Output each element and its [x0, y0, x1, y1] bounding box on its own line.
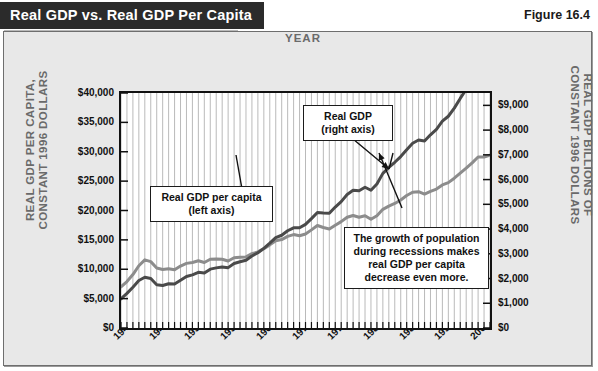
y-axis-right-tick-label: $1,000 — [498, 297, 529, 308]
y-axis-right-tick-label: $3,000 — [498, 248, 529, 259]
y-axis-right-tick-label: $5,000 — [498, 198, 529, 209]
y-axis-right-tick-label: $9,000 — [498, 99, 529, 110]
growth-callout-line4: decrease even more. — [351, 271, 482, 284]
y-axis-right-tick-label: $6,000 — [498, 174, 529, 185]
y-axis-right-tick-label: $2,000 — [498, 273, 529, 284]
figure-number: Figure 16.4 — [524, 8, 590, 22]
real-gdp-callout-line1: Real GDP — [310, 110, 386, 123]
figure-panel: REAL GDP PER CAPITA, CONSTANT 1996 DOLLA… — [3, 31, 592, 366]
growth-callout-line3: real GDP per capita — [351, 258, 482, 271]
y-axis-left-tick-label: $0 — [56, 322, 114, 333]
chart-title-bar: Real GDP vs. Real GDP Per Capita — [0, 2, 264, 29]
growth-callout-line2: during recessions makes — [351, 245, 482, 258]
real-gdp-callout-line2: (right axis) — [310, 123, 386, 136]
y-axis-left-tick-label: $5,000 — [56, 293, 114, 304]
y-axis-left-tick-label: $15,000 — [56, 234, 114, 245]
y-axis-right-tick-label: $0 — [498, 322, 509, 333]
y-axis-right-tick-label: $4,000 — [498, 223, 529, 234]
y-axis-right-tick-label: $8,000 — [498, 124, 529, 135]
figure-page: Real GDP vs. Real GDP Per Capita Figure … — [0, 0, 598, 371]
y-axis-left-title: REAL GDP PER CAPITA, CONSTANT 1996 DOLLA… — [24, 55, 50, 245]
y-axis-left-tick-label: $20,000 — [56, 205, 114, 216]
real-gdp-callout: Real GDP (right axis) — [303, 105, 393, 141]
y-axis-right-tick-label: $7,000 — [498, 149, 529, 160]
population-growth-callout: The growth of population during recessio… — [344, 227, 489, 289]
per-capita-callout: Real GDP per capita (left axis) — [150, 186, 273, 222]
y-axis-left-tick-label: $35,000 — [56, 116, 114, 127]
growth-callout-line1: The growth of population — [351, 232, 482, 245]
y-axis-left-tick-label: $30,000 — [56, 146, 114, 157]
x-axis-title: YEAR — [4, 32, 598, 44]
per-capita-callout-line1: Real GDP per capita — [157, 191, 266, 204]
y-axis-left-tick-label: $10,000 — [56, 263, 114, 274]
per-capita-callout-line2: (left axis) — [157, 204, 266, 217]
y-axis-left-tick-label: $25,000 — [56, 175, 114, 186]
chart-title: Real GDP vs. Real GDP Per Capita — [10, 7, 252, 23]
y-axis-right-title: REAL GDP BILLIONS OF CONSTANT 1996 DOLLA… — [568, 45, 594, 245]
y-axis-left-tick-label: $40,000 — [56, 87, 114, 98]
